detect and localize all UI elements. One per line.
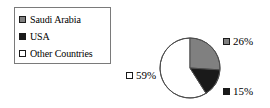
legend-label-saudi-arabia: Saudi Arabia: [30, 15, 81, 25]
data-label-other-countries: 59%: [126, 70, 156, 81]
pie-slice-saudi-arabia[interactable]: [190, 38, 220, 70]
legend-swatch-gray-icon: [19, 16, 26, 23]
data-label-swatch-white-icon: [126, 72, 133, 79]
chart-legend: Saudi Arabia USA Other Countries: [14, 7, 111, 64]
data-label-value-other-countries: 59%: [136, 70, 156, 81]
data-label-swatch-black-icon: [223, 88, 230, 95]
data-label-usa: 15%: [223, 86, 253, 97]
legend-item-usa[interactable]: USA: [19, 28, 106, 45]
pie-svg: [159, 37, 221, 99]
legend-item-other-countries[interactable]: Other Countries: [19, 45, 106, 62]
data-label-value-usa: 15%: [233, 86, 253, 97]
legend-item-saudi-arabia[interactable]: Saudi Arabia: [19, 11, 106, 28]
legend-label-other-countries: Other Countries: [30, 49, 93, 59]
legend-swatch-black-icon: [19, 33, 26, 40]
data-label-value-saudi-arabia: 26%: [233, 36, 253, 47]
data-label-swatch-gray-icon: [223, 38, 230, 45]
legend-label-usa: USA: [30, 32, 50, 42]
data-label-saudi-arabia: 26%: [223, 36, 253, 47]
legend-swatch-white-icon: [19, 50, 26, 57]
pie-graphic: [159, 37, 221, 99]
pie-chart-figure: Saudi Arabia USA Other Countries 26% 15%: [0, 0, 270, 108]
